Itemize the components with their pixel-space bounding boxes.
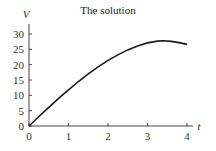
x-tick-label: 4 bbox=[184, 130, 190, 142]
y-tick-label: 10 bbox=[13, 89, 25, 101]
x-tick-label: 1 bbox=[66, 130, 72, 142]
x-axis-label: t bbox=[197, 120, 201, 132]
y-tick-label: 30 bbox=[13, 28, 25, 40]
chart-title: The solution bbox=[80, 4, 136, 16]
y-tick-label: 0 bbox=[19, 120, 25, 132]
x-tick-label: 3 bbox=[145, 130, 151, 142]
y-axis-label: V bbox=[23, 8, 31, 20]
y-tick-label: 15 bbox=[13, 74, 25, 86]
y-tick-label: 5 bbox=[19, 105, 25, 117]
chart: The solution V t 051015202530 01234 bbox=[0, 0, 216, 151]
y-tick-label: 25 bbox=[13, 43, 25, 55]
solution-curve bbox=[29, 41, 187, 126]
x-tick-label: 0 bbox=[26, 130, 32, 142]
y-tick-label: 20 bbox=[13, 59, 25, 71]
x-tick-label: 2 bbox=[105, 130, 111, 142]
